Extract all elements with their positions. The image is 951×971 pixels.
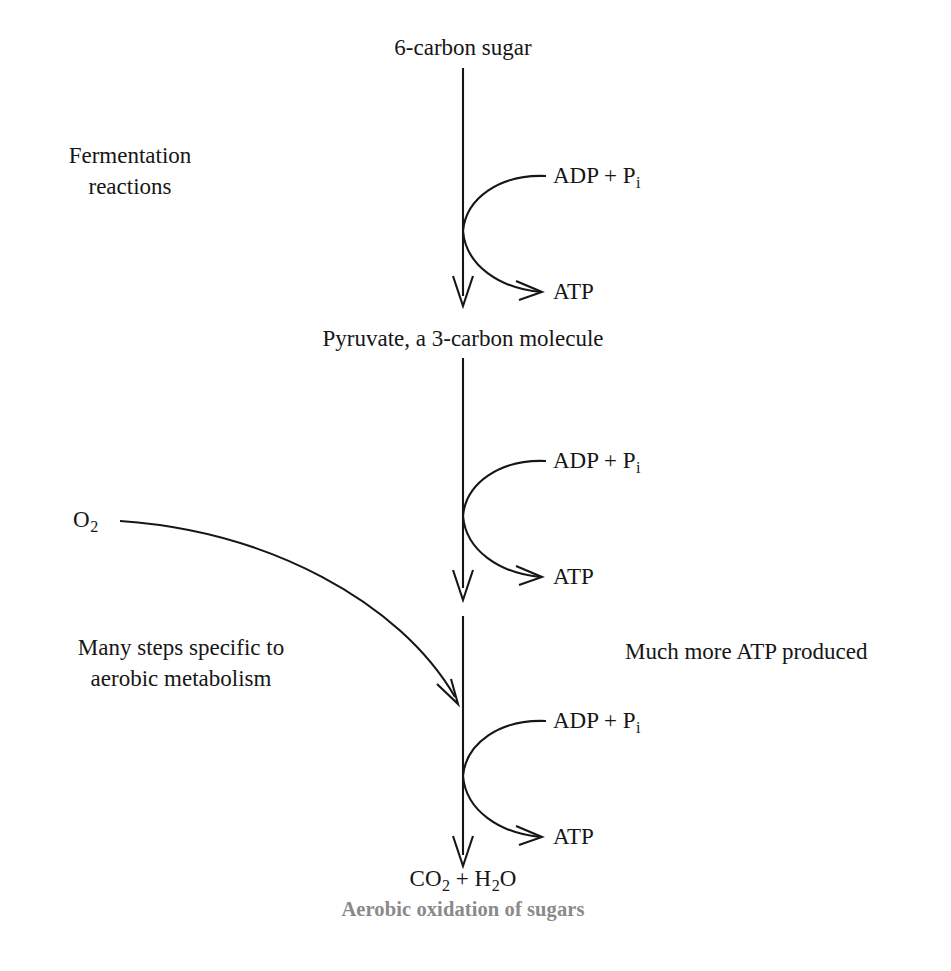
cofactor-out-curve-3 xyxy=(463,776,540,837)
annotation-many-steps: Many steps specific toaerobic metabolism xyxy=(78,633,284,695)
cofactor-output-label-3: ATP xyxy=(553,822,594,852)
adp-text-1: ADP + P xyxy=(553,163,635,188)
pi-subscript-1: i xyxy=(635,174,640,191)
product-formula-prefix: CO xyxy=(410,866,442,891)
oxygen-arrowhead xyxy=(437,679,458,704)
product-formula-middle: + H xyxy=(450,866,491,891)
fermentation-line-1: Fermentation xyxy=(69,143,192,168)
annotation-fermentation: Fermentationreactions xyxy=(69,141,192,203)
cofactor-input-label-2: ADP + Pi xyxy=(553,446,640,478)
oxygen-subscript: 2 xyxy=(90,518,99,535)
node-label-pyruvate: Pyruvate, a 3-carbon molecule xyxy=(323,324,604,354)
annotation-oxygen: O2 xyxy=(73,505,98,537)
node-label-start: 6-carbon sugar xyxy=(394,33,531,63)
product-formula-suffix: O xyxy=(500,866,517,891)
cofactor-output-label-1: ATP xyxy=(553,277,594,307)
diagram-caption: Aerobic oxidation of sugars xyxy=(341,896,584,923)
fermentation-line-2: reactions xyxy=(88,174,171,199)
annotation-much-more-atp: Much more ATP produced xyxy=(625,637,868,667)
cofactor-in-curve-3 xyxy=(463,721,546,776)
cofactor-input-label-1: ADP + Pi xyxy=(553,161,640,193)
cofactor-input-label-3: ADP + Pi xyxy=(553,706,640,738)
many-steps-line-2: aerobic metabolism xyxy=(91,666,272,691)
product-subscript-2: 2 xyxy=(491,877,500,894)
cofactor-in-curve-1 xyxy=(463,176,546,231)
pi-subscript-3: i xyxy=(635,719,640,736)
cofactor-out-curve-1 xyxy=(463,231,540,292)
cofactor-output-label-2: ATP xyxy=(553,562,594,592)
adp-text-3: ADP + P xyxy=(553,708,635,733)
adp-text-2: ADP + P xyxy=(553,448,635,473)
oxygen-symbol: O xyxy=(73,507,90,532)
product-subscript-1: 2 xyxy=(442,877,451,894)
pi-subscript-2: i xyxy=(635,459,640,476)
cofactor-in-curve-2 xyxy=(463,461,546,516)
metabolism-diagram: 6-carbon sugar Pyruvate, a 3-carbon mole… xyxy=(0,0,951,971)
many-steps-line-1: Many steps specific to xyxy=(78,635,284,660)
node-label-product: CO2 + H2O xyxy=(410,864,517,896)
cofactor-out-curve-2 xyxy=(463,516,540,577)
